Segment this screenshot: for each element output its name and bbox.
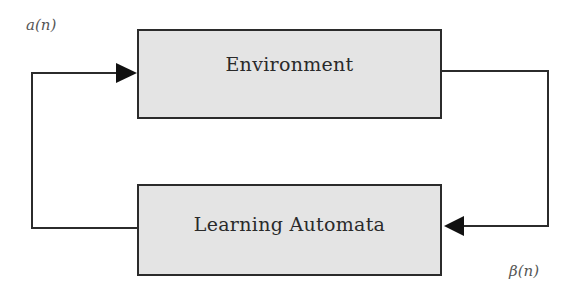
response-signal-label: β(n): [509, 262, 539, 280]
environment-node: Environment: [137, 29, 442, 119]
action-connector: [32, 73, 137, 228]
diagram-canvas: Environment Learning Automata a(n) β(n): [0, 0, 581, 300]
learning-automata-node: Learning Automata: [137, 184, 442, 276]
learning-automata-label: Learning Automata: [194, 213, 385, 235]
action-signal-label: a(n): [26, 16, 56, 34]
response-connector: [442, 71, 548, 226]
environment-label: Environment: [225, 53, 353, 75]
arrowhead-right-icon: [116, 63, 137, 83]
arrowhead-left-icon: [444, 216, 464, 236]
